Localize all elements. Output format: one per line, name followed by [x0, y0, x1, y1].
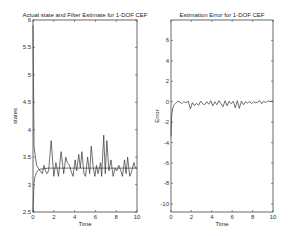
x-tick-label: 2 [190, 214, 194, 220]
y-tick-label: 0 [166, 99, 170, 105]
left-y-ticks: 2.533.544.555.56 [23, 17, 137, 215]
x-tick-label: 4 [210, 214, 214, 220]
left-plot-lines [33, 25, 137, 212]
x-tick-label: 0 [31, 214, 35, 220]
y-tick-label: 3.5 [23, 154, 32, 160]
left-y-axis-label: states [12, 108, 18, 124]
y-tick-label: -8 [164, 180, 170, 186]
left-plot-frame [33, 20, 137, 212]
x-tick-label: 2 [52, 214, 56, 220]
right-y-ticks: -10-8-6-4-20246 [160, 37, 273, 206]
y-tick-label: 5.5 [23, 44, 32, 50]
y-tick-label: -4 [164, 140, 170, 146]
y-tick-label: -10 [160, 201, 169, 207]
series-line-1 [33, 168, 137, 212]
series-line-0 [33, 25, 137, 176]
y-tick-label: 4 [28, 127, 32, 133]
y-tick-label: 4 [166, 58, 170, 64]
y-tick-label: 4.5 [23, 99, 32, 105]
x-tick-label: 8 [251, 214, 255, 220]
left-plot: Actual state and Filter Estimate for 1-D… [12, 12, 148, 227]
right-plot-frame [171, 20, 273, 212]
x-tick-label: 10 [270, 214, 277, 220]
left-x-ticks: 0246810 [31, 20, 141, 220]
right-y-axis-label: Error [154, 109, 160, 122]
x-tick-label: 6 [231, 214, 235, 220]
right-plot: Estimation Error for 1-DOF CEF 0246810 -… [154, 12, 277, 227]
right-x-ticks: 0246810 [169, 20, 277, 220]
y-tick-label: 2 [166, 78, 170, 84]
right-plot-lines [171, 101, 273, 137]
x-tick-label: 6 [94, 214, 98, 220]
left-plot-title: Actual state and Filter Estimate for 1-D… [22, 12, 147, 18]
right-plot-title: Estimation Error for 1-DOF CEF [179, 12, 264, 18]
y-tick-label: -2 [164, 119, 170, 125]
x-tick-label: 4 [73, 214, 77, 220]
y-tick-label: 2.5 [23, 209, 32, 215]
y-tick-label: 5 [28, 72, 32, 78]
x-tick-label: 8 [115, 214, 119, 220]
figure: Actual state and Filter Estimate for 1-D… [0, 0, 291, 236]
y-tick-label: 6 [166, 37, 170, 43]
x-tick-label: 0 [169, 214, 173, 220]
x-tick-label: 10 [134, 214, 141, 220]
left-x-axis-label: Time [78, 221, 92, 227]
series-line-0 [171, 101, 273, 137]
y-tick-label: -6 [164, 160, 170, 166]
right-x-axis-label: Time [215, 221, 229, 227]
y-tick-label: 3 [28, 182, 32, 188]
